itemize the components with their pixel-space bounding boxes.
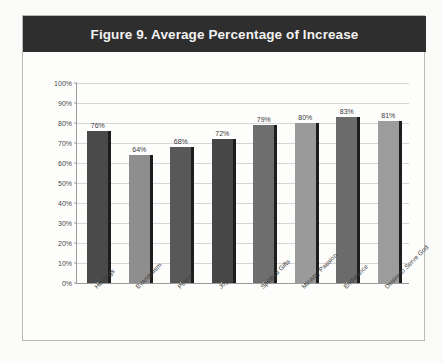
bar-shadow (233, 139, 236, 283)
bar-slot: 79% (253, 83, 274, 283)
bar (170, 147, 191, 283)
chart-plot-area: 100%90%80%70%60%50%40%30%20%10%0% 76%64%… (23, 52, 426, 341)
plot-frame: 100%90%80%70%60%50%40%30%20%10%0% 76%64%… (76, 83, 409, 284)
bar-value-label: 76% (91, 122, 105, 129)
bar (212, 139, 233, 283)
y-axis-tick-label: 0% (62, 280, 72, 287)
y-axis-tick-label: 50% (58, 180, 72, 187)
bar-slot: 80% (295, 83, 316, 283)
y-axis-tick-label: 10% (58, 260, 72, 267)
bar-value-label: 79% (257, 116, 271, 123)
bar-value-label: 68% (174, 138, 188, 145)
bar-value-label: 81% (381, 112, 395, 119)
bar-slot: 81% (378, 83, 399, 283)
bar (129, 155, 150, 283)
bar-slot: 83% (336, 83, 357, 283)
bar (378, 121, 399, 283)
y-axis-tick-label: 40% (58, 200, 72, 207)
y-axis-tick-label: 20% (58, 240, 72, 247)
page-background: Figure 9. Average Percentage of Increase… (0, 0, 443, 363)
bar-shadow (150, 155, 153, 283)
y-axis-tick-label: 70% (58, 140, 72, 147)
bars-group: 76%64%68%72%79%80%83%81% (77, 83, 409, 283)
figure-container: Figure 9. Average Percentage of Increase… (22, 15, 425, 341)
bar-shadow (274, 125, 277, 283)
bar-shadow (357, 117, 360, 283)
bar-shadow (316, 123, 319, 283)
bar-slot: 64% (129, 83, 150, 283)
bar-slot: 72% (212, 83, 233, 283)
page-title: Figure 9. Average Percentage of Increase (91, 27, 359, 42)
bar-value-label: 80% (298, 114, 312, 121)
bar (253, 125, 274, 283)
figure-title-bar: Figure 9. Average Percentage of Increase (23, 16, 426, 52)
bar-value-label: 83% (340, 108, 354, 115)
y-axis-tick-label: 30% (58, 220, 72, 227)
bar-shadow (399, 121, 402, 283)
y-axis-tick-label: 80% (58, 120, 72, 127)
bar (336, 117, 357, 283)
bar-value-label: 64% (132, 146, 146, 153)
bar-shadow (108, 131, 111, 283)
bar (295, 123, 316, 283)
bar-slot: 68% (170, 83, 191, 283)
bar-value-label: 72% (215, 130, 229, 137)
y-axis-tick-label: 60% (58, 160, 72, 167)
y-axis-tick-label: 100% (54, 80, 72, 87)
bar-shadow (191, 147, 194, 283)
bar-slot: 76% (87, 83, 108, 283)
x-axis-labels-group: HealingsEvangelismPeaceJoySpiritual Gift… (76, 285, 408, 341)
y-axis-tick-label: 90% (58, 100, 72, 107)
bar (87, 131, 108, 283)
